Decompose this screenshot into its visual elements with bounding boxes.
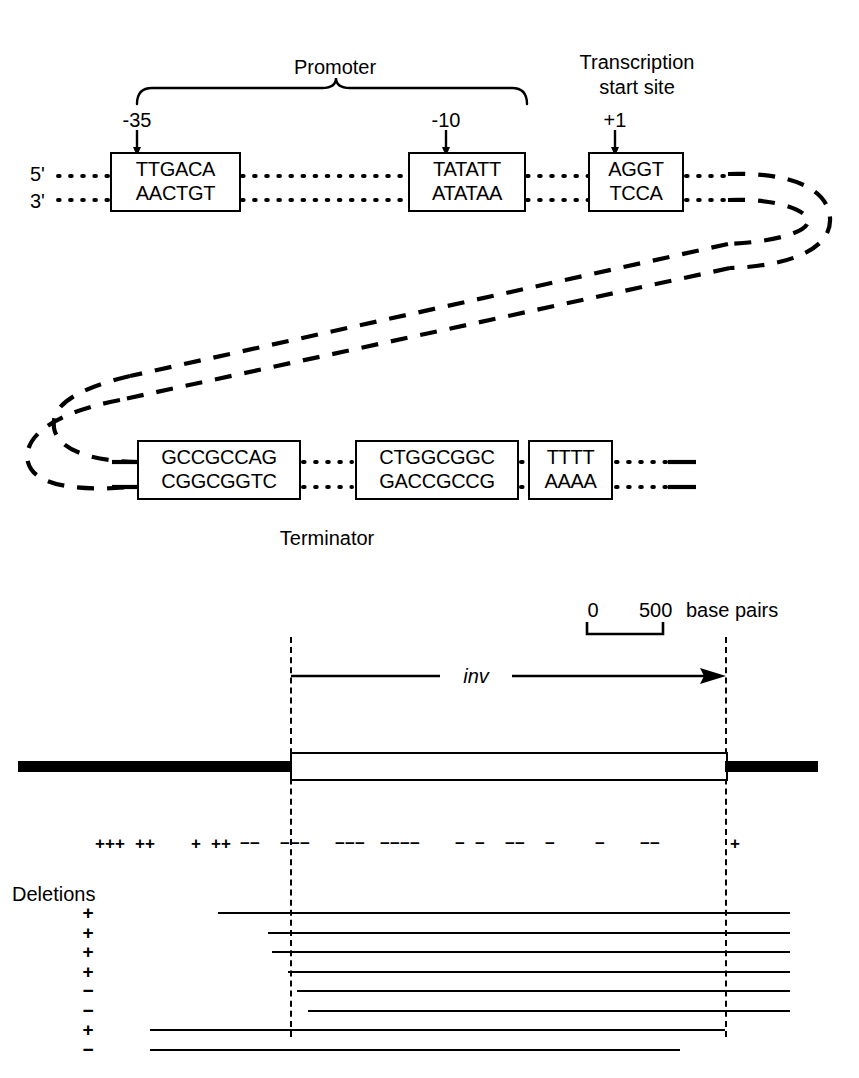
deletion-phenotype-sign: + bbox=[82, 962, 93, 981]
deletion-phenotype-sign: − bbox=[82, 981, 93, 1000]
deletion-phenotype-sign: − bbox=[82, 1001, 93, 1020]
deletion-line bbox=[272, 951, 790, 953]
deletion-phenotype-sign: − bbox=[82, 1040, 93, 1059]
deletion-phenotype-sign: + bbox=[82, 923, 93, 942]
deletion-phenotype-sign: + bbox=[82, 942, 93, 961]
deletion-line bbox=[288, 971, 790, 973]
deletion-phenotype-sign: + bbox=[82, 903, 93, 922]
figure-canvas: Promoter Transcription start site -35 -1… bbox=[0, 0, 859, 1078]
deletion-line bbox=[297, 990, 790, 992]
deletion-line bbox=[268, 932, 790, 934]
deletion-line bbox=[150, 1049, 680, 1051]
deletion-line bbox=[150, 1029, 725, 1031]
deletion-rows-group: ++++−−+− bbox=[0, 0, 859, 1078]
deletion-phenotype-sign: + bbox=[82, 1020, 93, 1039]
deletion-line bbox=[308, 1010, 790, 1012]
deletion-line bbox=[218, 912, 790, 914]
